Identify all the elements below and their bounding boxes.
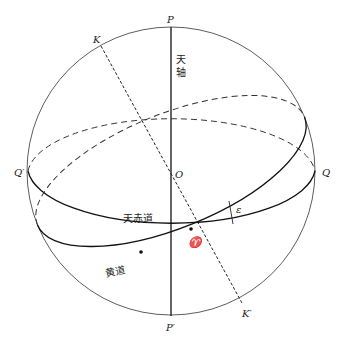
ecliptic-back [16,64,304,225]
celestial-sphere-diagram: P P′ O Q′ Q K K′ ε ♈ 天 轴 天赤道 黄道 [0,0,341,344]
label-K-prime: K′ [241,308,252,319]
label-celestial-axis-2: 轴 [176,66,186,78]
ecliptic-direction-arrow [139,250,143,254]
label-Q-prime: Q′ [14,167,25,178]
vernal-equinox-point [189,227,193,231]
label-celestial-axis-1: 天 [176,54,186,65]
label-celestial-equator: 天赤道 [123,212,153,224]
label-P: P [166,14,174,25]
label-P-prime: P′ [165,322,176,333]
label-ecliptic: 黄道 [104,263,126,279]
label-vernal-equinox: ♈ [188,236,204,249]
label-O: O [175,169,183,180]
label-epsilon: ε [236,204,241,215]
label-Q: Q [322,167,330,178]
label-K: K [92,34,101,45]
ecliptic-front [37,117,325,278]
